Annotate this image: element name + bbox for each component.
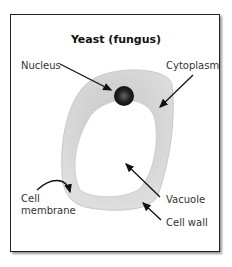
label-cytoplasm: Cytoplasm [166, 60, 219, 72]
label-cell-wall: Cell wall [166, 217, 208, 229]
label-nucleus: Nucleus [21, 60, 61, 72]
label-cell-membrane: Cell membrane [21, 193, 76, 217]
label-vacuole: Vacuole [166, 194, 205, 206]
nucleus [114, 86, 134, 106]
